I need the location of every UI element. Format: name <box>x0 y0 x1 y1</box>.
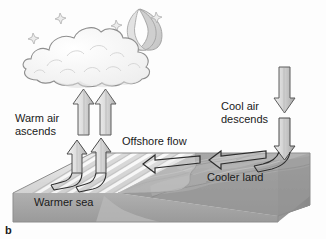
star-icon <box>55 13 66 24</box>
arrow-warm-air-ascends-2 <box>95 89 116 135</box>
star-icon <box>28 33 39 44</box>
arrow-warm-air-ascends-1 <box>73 89 94 135</box>
label-cool-air-descends: Cool air descends <box>221 100 268 126</box>
label-cooler-land: Cooler land <box>207 171 263 184</box>
figure-land-sea-breeze: Warm air ascends Cool air descends Offsh… <box>0 0 326 239</box>
arrow-cool-air-descends <box>274 67 295 113</box>
label-warmer-sea: Warmer sea <box>34 196 94 209</box>
figure-panel-label: b <box>5 224 12 237</box>
label-offshore-flow: Offshore flow <box>122 135 187 148</box>
label-warm-air-ascends: Warm air ascends <box>15 112 59 138</box>
